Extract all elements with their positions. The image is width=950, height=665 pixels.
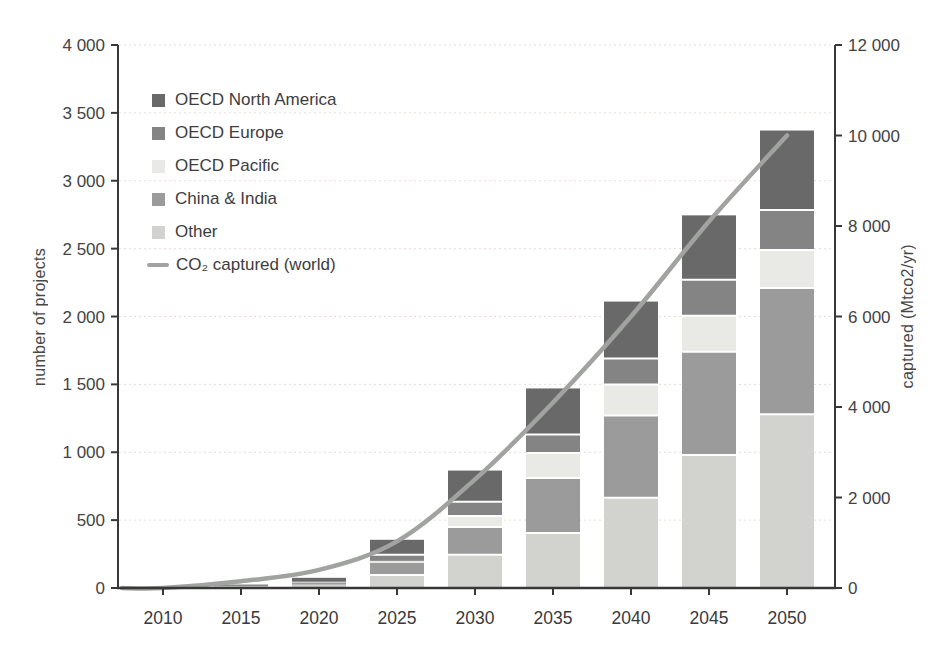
- x-axis-ticks: 201020152020202520302035204020452050: [144, 588, 807, 628]
- right-axis-tick-label: 6 000: [848, 308, 891, 327]
- legend-label-oecd-north-america: OECD North America: [175, 90, 337, 110]
- bar-segment-2050: [760, 414, 814, 588]
- left-axis-tick-label: 3 000: [62, 172, 105, 191]
- bar-segment-2020: [292, 582, 346, 583]
- x-axis-label-2035: 2035: [534, 608, 573, 628]
- legend-item-other: Other: [152, 222, 337, 242]
- bar-segment-2045: [682, 352, 736, 455]
- left-axis-tick-label: 3 500: [62, 104, 105, 123]
- left-axis-tick-label: 4 000: [62, 36, 105, 55]
- bar-segment-2045: [682, 455, 736, 588]
- legend-swatch-oecd-pacific-icon: [152, 160, 165, 173]
- chart-figure: number of projects captured (Mtco2/yr) 0…: [0, 0, 950, 665]
- legend-swatch-other-icon: [152, 226, 165, 239]
- legend-label-co2-captured: CO₂ captured (world): [176, 255, 336, 275]
- x-axis-label-2050: 2050: [768, 608, 807, 628]
- right-axis-tick-label: 4 000: [848, 398, 891, 417]
- x-axis-label-2040: 2040: [612, 608, 651, 628]
- left-axis-tick-label: 2 000: [62, 308, 105, 327]
- x-axis-label-2020: 2020: [300, 608, 339, 628]
- bar-segment-2025: [370, 575, 424, 588]
- bar-segment-2035: [526, 435, 580, 453]
- legend-swatch-oecd-north-america-icon: [152, 94, 165, 107]
- right-axis-ticks: 02 0004 0006 0008 00010 00012 000: [835, 36, 900, 598]
- legend-item-oecd-pacific: OECD Pacific: [152, 156, 337, 176]
- legend-label-oecd-europe: OECD Europe: [175, 123, 284, 143]
- bar-segment-2040: [604, 359, 658, 385]
- left-axis-tick-label: 2 500: [62, 240, 105, 259]
- bar-segment-2035: [526, 453, 580, 478]
- bar-segment-2035: [526, 388, 580, 434]
- bar-2020: [292, 578, 346, 588]
- left-axis-tick-label: 1 000: [62, 443, 105, 462]
- legend-label-other: Other: [175, 222, 218, 242]
- bar-2025: [370, 540, 424, 588]
- x-axis-label-2015: 2015: [222, 608, 261, 628]
- legend-item-china-india: China & India: [152, 189, 337, 209]
- right-axis-tick-label: 0: [848, 579, 857, 598]
- bar-2040: [604, 302, 658, 588]
- bar-segment-2040: [604, 384, 658, 415]
- chart-legend: OECD North America OECD Europe OECD Paci…: [152, 90, 337, 288]
- legend-label-oecd-pacific: OECD Pacific: [175, 156, 279, 176]
- legend-swatch-oecd-europe-icon: [152, 127, 165, 140]
- left-axis-tick-label: 500: [77, 511, 105, 530]
- bar-segment-2030: [448, 502, 502, 516]
- bar-segment-2040: [604, 498, 658, 588]
- bar-segment-2025: [370, 561, 424, 563]
- x-axis-label-2025: 2025: [378, 608, 417, 628]
- right-axis-tick-label: 8 000: [848, 217, 891, 236]
- bar-segment-2030: [448, 555, 502, 588]
- legend-item-oecd-europe: OECD Europe: [152, 123, 337, 143]
- stacked-bar-line-chart: 05001 0001 5002 0002 5003 0003 5004 0000…: [0, 0, 950, 665]
- bar-segment-2025: [370, 563, 424, 575]
- bar-segment-2030: [448, 527, 502, 555]
- left-axis-tick-label: 0: [96, 579, 105, 598]
- bar-segment-2035: [526, 533, 580, 588]
- bar-2030: [448, 471, 502, 588]
- bar-segment-2020: [292, 578, 346, 581]
- left-axis-ticks: 05001 0001 5002 0002 5003 0003 5004 000: [62, 36, 118, 598]
- bar-segment-2020: [292, 581, 346, 582]
- right-axis-tick-label: 12 000: [848, 36, 900, 55]
- bar-segment-2035: [526, 478, 580, 533]
- bar-2045: [682, 215, 736, 588]
- x-axis-label-2030: 2030: [456, 608, 495, 628]
- bar-segment-2050: [760, 131, 814, 210]
- right-axis-tick-label: 10 000: [848, 127, 900, 146]
- x-axis-label-2010: 2010: [144, 608, 183, 628]
- legend-item-co2-line: CO₂ captured (world): [152, 255, 337, 275]
- bar-segment-2045: [682, 316, 736, 352]
- x-axis-label-2045: 2045: [690, 608, 729, 628]
- right-axis-tick-label: 2 000: [848, 489, 891, 508]
- legend-label-china-india: China & India: [175, 189, 277, 209]
- bar-2050: [760, 131, 814, 588]
- bar-segment-2015: [214, 586, 268, 587]
- bar-segment-2020: [292, 583, 346, 585]
- legend-line-swatch-icon: [147, 263, 169, 267]
- legend-swatch-china-india-icon: [152, 193, 165, 206]
- legend-item-oecd-north-america: OECD North America: [152, 90, 337, 110]
- bar-segment-2045: [682, 280, 736, 316]
- bar-segment-2050: [760, 250, 814, 288]
- bar-segment-2050: [760, 288, 814, 414]
- bar-segment-2030: [448, 516, 502, 527]
- left-axis-tick-label: 1 500: [62, 375, 105, 394]
- bar-segment-2040: [604, 416, 658, 498]
- bar-segment-2050: [760, 210, 814, 250]
- bar-2035: [526, 388, 580, 588]
- bar-segment-2040: [604, 302, 658, 359]
